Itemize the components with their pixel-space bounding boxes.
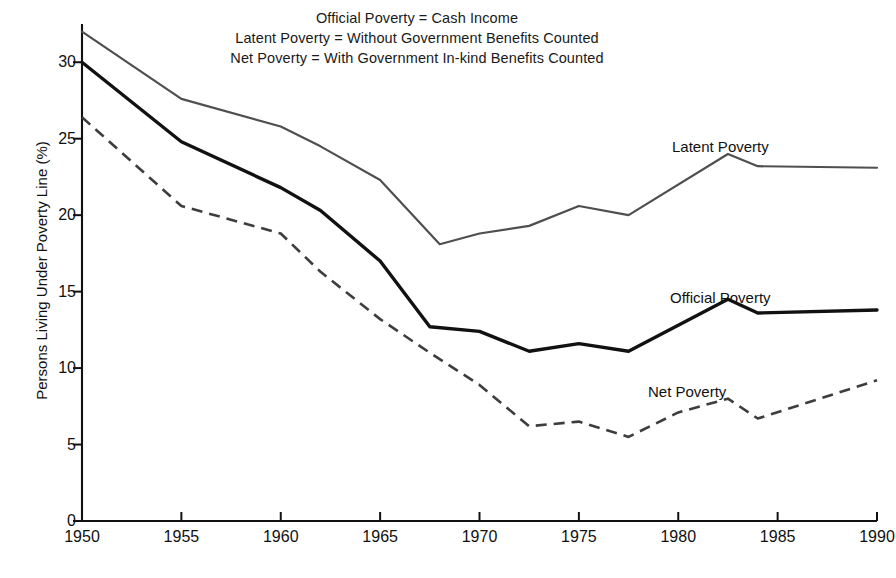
poverty-line-chart: Official Poverty = Cash Income Latent Po… <box>0 0 896 578</box>
axis-lines <box>82 24 877 521</box>
series-label-official-poverty: Official Poverty <box>670 289 771 306</box>
series-label-latent-poverty: Latent Poverty <box>672 138 769 155</box>
series-label-net-poverty: Net Poverty <box>648 383 726 400</box>
series-line-official-poverty <box>82 62 877 351</box>
